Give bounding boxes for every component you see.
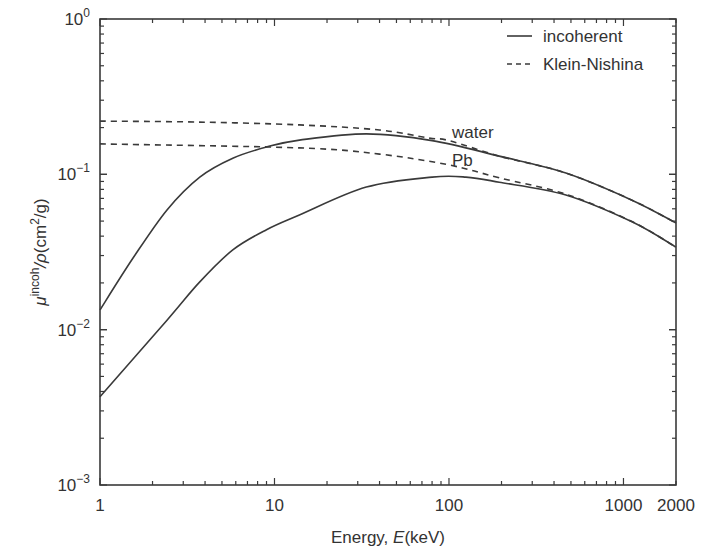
x-tick-label: 1 (95, 496, 104, 515)
legend-label-klein-nishina: Klein-Nishina (543, 55, 644, 74)
plot-frame (100, 19, 676, 485)
x-tick-label: 100 (435, 496, 463, 515)
annotation-water: water (451, 123, 494, 142)
x-tick-label: 10 (265, 496, 284, 515)
x-tick-label: 1000 (605, 496, 643, 515)
y-axis-title: μincoh/ρ(cm2/g) (28, 198, 50, 306)
y-tick-label: 100 (64, 6, 90, 29)
series-water-klein-nishina (100, 121, 676, 223)
y-tick-label: 10−3 (57, 472, 90, 495)
chart: 11010010002000 10010−110−210−3 incoheren… (0, 0, 702, 551)
series-water-incoherent (100, 134, 676, 310)
series-pb-klein-nishina (100, 144, 676, 247)
legend: incoherent Klein-Nishina (507, 27, 644, 74)
series-pb-incoherent (100, 176, 676, 397)
y-tick-label: 10−1 (57, 161, 90, 184)
y-tick-label: 10−2 (57, 317, 90, 340)
x-axis-title: Energy, E(keV) (331, 528, 445, 547)
x-axis-ticks: 11010010002000 (95, 19, 695, 515)
x-tick-label: 2000 (657, 496, 695, 515)
legend-label-incoherent: incoherent (543, 27, 623, 46)
annotation-pb: Pb (452, 151, 473, 170)
series-layer (100, 121, 676, 397)
y-axis-ticks: 10010−110−210−3 (57, 6, 676, 495)
plot-border (100, 19, 676, 485)
